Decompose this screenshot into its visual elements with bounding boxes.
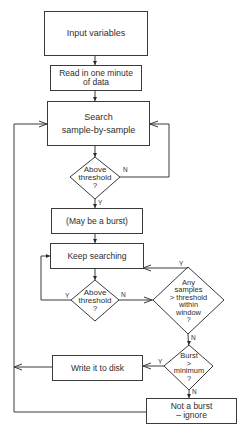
any-samples-label: Any samples > threshold within window ? [153,272,224,330]
burst-text-line4: ? [187,375,191,383]
keep-searching-label: Keep searching [51,244,143,268]
burst-no-label: N [192,388,197,395]
above-threshold-2-label: Above threshold ? [71,284,119,317]
input-variables-text: Input variables [67,29,126,38]
not-burst-label: Not a burst – ignore [147,399,236,423]
not-burst-text-line2: – ignore [176,411,207,420]
edge-any-yes [143,267,188,268]
write-disk-label: Write it to disk [53,356,142,380]
burst-yes-label: Y [158,358,162,365]
at1-no-label: N [123,166,128,173]
may-be-burst-text: (May be a burst) [66,217,128,226]
burst-minimum-label: Burst > minimum ? [165,348,213,386]
at2-text-line3: ? [93,305,97,313]
search-text-line1: Search [84,111,113,123]
any-text-line6: ? [186,316,190,324]
at2-yes-label: Y [65,292,69,299]
any-yes-label: Y [179,260,183,267]
search-label: Search sample-by-sample [48,102,149,145]
read-data-text-line2: of data [83,78,109,87]
may-be-burst-label: (May be a burst) [52,209,142,233]
flowchart: Input variables Read in one minute of da… [0,0,243,432]
write-disk-text: Write it to disk [71,364,124,373]
any-no-label: N [191,334,196,341]
search-text-line2: sample-by-sample [62,124,136,136]
at1-yes-label: Y [98,199,102,206]
input-variables-label: Input variables [45,12,147,55]
at1-text-line3: ? [93,182,97,190]
above-threshold-1-label: Above threshold ? [70,161,120,195]
at2-no-label: N [121,291,126,298]
keep-searching-text: Keep searching [67,252,126,261]
read-data-label: Read in one minute of data [51,66,141,90]
